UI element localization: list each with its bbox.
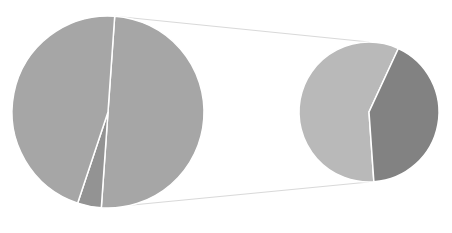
main-pie-slice-1 — [101, 16, 204, 208]
pie-of-pie-chart — [0, 0, 452, 233]
secondary-pie — [299, 42, 439, 182]
main-pie — [12, 16, 204, 208]
